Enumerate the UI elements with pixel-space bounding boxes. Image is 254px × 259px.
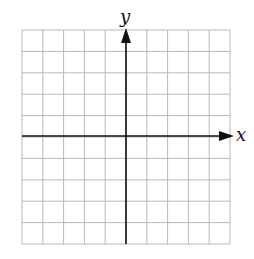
coordinate-grid: x y (0, 0, 254, 259)
x-axis-label: x (236, 124, 246, 145)
x-axis-arrow-icon (219, 131, 234, 141)
y-axis-label: y (119, 6, 131, 27)
